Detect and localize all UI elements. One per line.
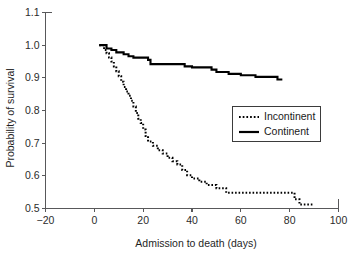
x-tick-label: 100 xyxy=(330,214,348,226)
legend-label-continent: Continent xyxy=(264,125,309,137)
x-axis-title: Admission to death (days) xyxy=(135,237,256,249)
y-tick-labels: 0.50.60.70.80.91.01.1 xyxy=(25,6,40,214)
curve-continent xyxy=(99,45,282,79)
x-tick-label: 80 xyxy=(284,214,296,226)
x-tick-label: 20 xyxy=(137,214,149,226)
x-tick-label: 40 xyxy=(186,214,198,226)
y-tick-label: 0.6 xyxy=(25,169,40,181)
x-tick-label: 60 xyxy=(235,214,247,226)
y-axis-title: Probability of survival xyxy=(4,68,16,167)
chart-canvas: −20020406080100 0.50.60.70.80.91.01.1 In… xyxy=(0,0,353,255)
y-tick-label: 0.7 xyxy=(25,137,40,149)
y-tick-label: 1.1 xyxy=(25,6,40,18)
x-tick-label: −20 xyxy=(37,214,55,226)
legend-label-incontinent: Incontinent xyxy=(264,110,315,122)
y-tick-label: 0.5 xyxy=(25,202,40,214)
y-tick-label: 0.8 xyxy=(25,104,40,116)
x-tick-label: 0 xyxy=(91,214,97,226)
x-tick-labels: −20020406080100 xyxy=(37,214,348,226)
y-tick-label: 0.9 xyxy=(25,71,40,83)
y-tick-label: 1.0 xyxy=(25,39,40,51)
survival-chart: −20020406080100 0.50.60.70.80.91.01.1 In… xyxy=(0,0,353,255)
chart-legend: IncontinentContinent xyxy=(232,106,320,141)
